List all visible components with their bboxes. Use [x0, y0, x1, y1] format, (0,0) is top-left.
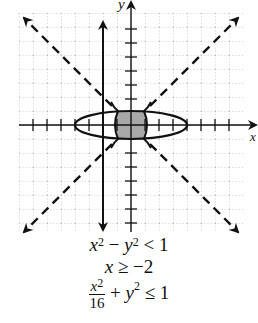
eq1-exp-x: 2: [98, 235, 104, 249]
eq1-minus: −: [104, 234, 124, 255]
eq1-exp-y: 2: [133, 235, 139, 249]
eq3-exp-y: 2: [134, 279, 140, 293]
x-axis-label: x: [249, 129, 256, 144]
eq3-rel: ≤ 1: [140, 282, 169, 303]
equation-2: x ≥ −2: [0, 256, 258, 278]
eq3-den: 16: [89, 295, 106, 311]
eq1-y: y: [124, 234, 132, 255]
eq1-rel: < 1: [139, 234, 169, 255]
eq1-x: x: [90, 234, 98, 255]
eq2-rel: ≥ −2: [113, 256, 153, 277]
equation-list: x2 − y2 < 1 x ≥ −2 x2 16 + y2 ≤ 1: [0, 234, 258, 311]
equation-1: x2 − y2 < 1: [0, 234, 258, 256]
equation-3: x2 16 + y2 ≤ 1: [0, 278, 258, 311]
eq3-fraction: x2 16: [89, 278, 106, 311]
eq3-num-exp: 2: [97, 276, 103, 290]
eq3-plus: +: [105, 282, 125, 303]
eq3-y: y: [126, 282, 134, 303]
eq2-x: x: [105, 256, 113, 277]
graph: y x: [0, 0, 258, 240]
y-axis-label: y: [116, 0, 125, 12]
